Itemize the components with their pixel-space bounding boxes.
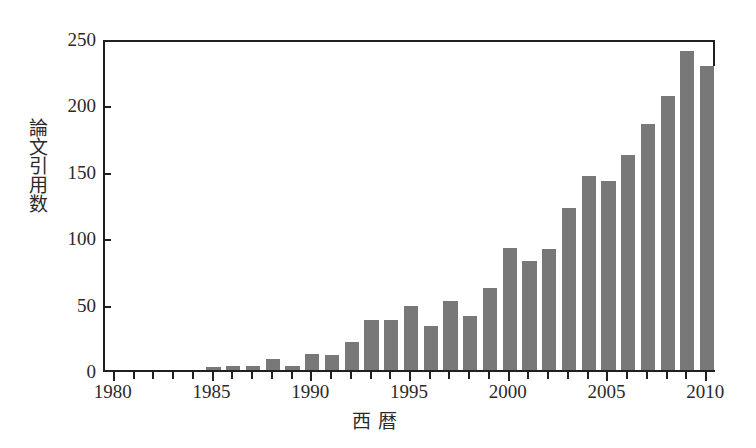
x-axis-tick — [133, 372, 135, 379]
x-axis-tick — [172, 372, 174, 379]
y-axis-tick-label: 150 — [50, 162, 96, 184]
bar — [561, 208, 577, 370]
y-axis-tick — [103, 106, 111, 108]
x-axis-tick — [429, 372, 431, 379]
bar — [640, 124, 656, 370]
bar — [363, 320, 379, 370]
y-axis-tick — [103, 239, 111, 241]
x-axis-tick — [468, 372, 470, 379]
x-axis-tick — [685, 372, 687, 379]
bar — [423, 326, 439, 370]
y-axis-tick-label: 250 — [50, 29, 96, 51]
bar — [304, 354, 320, 370]
x-axis-tick — [389, 372, 391, 379]
x-axis-tick — [271, 372, 273, 379]
x-axis-tick — [508, 372, 510, 381]
x-axis-tick — [666, 372, 668, 379]
bar — [581, 176, 597, 370]
bar — [502, 248, 518, 370]
bar — [383, 320, 399, 370]
x-axis-tick-label: 1980 — [78, 381, 148, 403]
x-axis-tick — [448, 372, 450, 379]
x-axis-tick-label: 2000 — [473, 381, 543, 403]
x-axis-tick — [606, 372, 608, 381]
bar — [344, 342, 360, 370]
bar — [679, 51, 695, 370]
bar — [620, 155, 636, 370]
bar — [660, 96, 676, 370]
plot-area — [103, 40, 715, 372]
x-axis-tick — [231, 372, 233, 379]
x-axis-tick-label: 1995 — [374, 381, 444, 403]
x-axis-tick — [527, 372, 529, 379]
bar — [205, 367, 221, 370]
x-axis-tick — [350, 372, 352, 379]
y-axis-tick — [103, 173, 111, 175]
x-axis-tick-label: 1985 — [177, 381, 247, 403]
x-axis-tick — [567, 372, 569, 379]
bar — [521, 261, 537, 370]
x-axis-tick — [113, 372, 115, 381]
bar — [541, 249, 557, 370]
x-axis-tick-label: 2005 — [571, 381, 641, 403]
y-axis-tick — [103, 306, 111, 308]
bar — [600, 181, 616, 370]
x-axis-tick-label: 2010 — [670, 381, 740, 403]
x-axis-tick — [488, 372, 490, 379]
x-axis-tick-label: 1990 — [275, 381, 345, 403]
bar — [324, 355, 340, 370]
x-axis-tick — [587, 372, 589, 379]
y-axis-tick-label: 0 — [50, 361, 96, 383]
x-axis-title: 西暦 — [0, 406, 756, 433]
x-axis-tick — [547, 372, 549, 379]
bar — [284, 366, 300, 370]
y-axis-tick-label: 200 — [50, 95, 96, 117]
bar — [462, 316, 478, 370]
x-axis-tick — [330, 372, 332, 379]
y-axis-tick-label: 50 — [50, 295, 96, 317]
y-axis-tick-label: 100 — [50, 228, 96, 250]
y-axis-title: 論文引用数 — [16, 118, 46, 213]
bar — [442, 301, 458, 370]
bar-series — [105, 42, 713, 370]
bar — [403, 306, 419, 370]
x-axis-tick — [705, 372, 707, 381]
bar — [699, 66, 715, 370]
x-axis-tick — [212, 372, 214, 381]
x-axis-tick — [370, 372, 372, 379]
bar — [482, 288, 498, 370]
x-axis-tick — [192, 372, 194, 379]
x-axis-tick — [152, 372, 154, 379]
x-axis-tick — [291, 372, 293, 379]
x-axis-tick — [251, 372, 253, 379]
x-axis-tick — [646, 372, 648, 379]
x-axis-tick — [409, 372, 411, 381]
citation-bar-chart: 論文引用数 050100150200250 198019851990199520… — [0, 0, 756, 448]
bar — [245, 366, 261, 370]
x-axis-tick — [310, 372, 312, 381]
bar — [265, 359, 281, 370]
x-axis-tick — [626, 372, 628, 379]
bar — [225, 366, 241, 370]
